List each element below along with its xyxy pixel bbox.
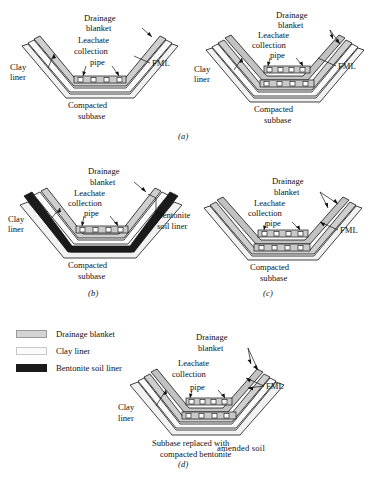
arrow-pipe-left	[189, 394, 193, 399]
legend-swatch-clay-liner	[16, 347, 47, 355]
leachate-pipe	[264, 82, 269, 87]
label-compacted-line1: Compacted	[68, 260, 108, 270]
label-compacted-line2: subbase	[78, 271, 105, 281]
legend-item-drainage-blanket: Drainage blanket	[16, 327, 122, 341]
landfill-liner-figure: Drainage blanket Leachate collection pip…	[0, 0, 374, 482]
arrow-pipe-left	[83, 71, 87, 76]
label-clay-line1: Clay	[118, 402, 135, 412]
leachate-pipe	[267, 68, 272, 73]
label-leachate-line1: Leachate	[78, 35, 109, 45]
label-leachate-line3: pipe	[84, 208, 99, 218]
label-leachate-line2: collection	[74, 46, 109, 56]
label-leachate-line3: pipe	[270, 50, 285, 60]
leachate-pipe	[117, 78, 122, 83]
leachate-pipe	[262, 232, 267, 237]
leachate-pipe	[224, 414, 229, 419]
legend-item-bentonite-soil-liner: Bentonite soil liner	[16, 361, 122, 375]
legend-swatch-bentonite-soil-liner	[16, 364, 47, 372]
legend-item-clay-liner: Clay liner	[16, 344, 122, 358]
label-subbase-repl-line3: amended soil	[217, 443, 265, 453]
arrow-pipe-left	[267, 62, 271, 67]
label-fml: FML	[340, 225, 358, 235]
leachate-pipe	[274, 232, 279, 237]
leachate-pipe	[278, 68, 283, 73]
leachate-pipe	[290, 82, 295, 87]
label-drainage-line2: blanket	[278, 20, 304, 30]
caption-c: (c)	[263, 288, 273, 298]
label-leachate-line2: collection	[252, 40, 287, 50]
legend: Drainage blanket Clay liner Bentonite so…	[16, 327, 122, 378]
leachate-pipe	[200, 400, 205, 405]
leachate-pipe	[91, 78, 96, 83]
label-leachate-line2: collection	[248, 208, 283, 218]
leachate-pipe	[272, 246, 277, 251]
label-leachate-line3: pipe	[266, 218, 281, 228]
leachate-pipe	[189, 400, 194, 405]
leachate-pipe	[298, 232, 303, 237]
label-leachate-line1: Leachate	[258, 30, 289, 40]
leachate-pipe	[106, 228, 111, 233]
label-drainage-line2: blanket	[198, 343, 224, 353]
caption-b: (b)	[88, 288, 99, 298]
label-drainage-line2: blanket	[274, 187, 300, 197]
leachate-pipe	[286, 232, 291, 237]
label-clay-line2: liner	[8, 224, 24, 234]
label-compacted-line1: Compacted	[254, 104, 294, 114]
label-fml: FML	[338, 61, 356, 71]
caption-d: (d)	[178, 459, 189, 469]
leachate-pipe	[298, 246, 303, 251]
label-leachate-line3: pipe	[90, 57, 105, 67]
panel-a-left: Drainage blanket Leachate collection pip…	[6, 6, 186, 134]
label-clay-line2: liner	[194, 74, 210, 84]
label-leachate-line1: Leachate	[178, 358, 209, 368]
leachate-pipe	[300, 68, 305, 73]
arrow-drainage-1	[253, 365, 258, 370]
label-clay-line1: Clay	[8, 214, 25, 224]
arrow-drainage-1	[333, 199, 338, 204]
figure-bottom-caption	[8, 472, 374, 482]
label-drainage-line1: Drainage	[84, 13, 116, 23]
label-fml: FML	[152, 58, 170, 68]
label-compacted-line2: subbase	[260, 273, 287, 283]
panel-d: Drainage blanket Leachate collection pip…	[108, 320, 358, 460]
legend-label-clay-liner: Clay liner	[56, 346, 90, 356]
panel-c: Drainage blanket Leachate collection pip…	[192, 168, 372, 288]
label-clay-line1: Clay	[194, 64, 211, 74]
legend-swatch-drainage-blanket	[16, 330, 47, 338]
leachate-pipe	[277, 82, 282, 87]
label-drainage-line1: Drainage	[276, 10, 308, 20]
label-leachate-line1: Leachate	[74, 188, 105, 198]
leachate-pipe	[186, 414, 191, 419]
leachate-pipe	[93, 228, 98, 233]
arrow-drainage	[141, 187, 146, 192]
leachate-pipe	[80, 228, 85, 233]
label-drainage-line1: Drainage	[88, 166, 120, 176]
leachate-pipe	[212, 414, 217, 419]
arrow-drainage-2	[248, 360, 252, 365]
leachate-pipe	[78, 78, 83, 83]
label-compacted-line1: Compacted	[250, 262, 290, 272]
leachate-pipe	[199, 414, 204, 419]
arrow-pipe-right	[115, 72, 119, 77]
label-drainage-line2: blanket	[90, 177, 116, 187]
panel-a-right: Drainage blanket Leachate collection pip…	[190, 6, 372, 134]
leachate-pipe	[303, 82, 308, 87]
leachate-pipe	[211, 400, 216, 405]
label-compacted-line1: Compacted	[68, 100, 108, 110]
label-leachate-line1: Leachate	[254, 198, 285, 208]
legend-label-drainage-blanket: Drainage blanket	[56, 329, 115, 339]
arrow-drainage-2	[330, 35, 334, 40]
label-leachate-line3: pipe	[190, 382, 205, 392]
label-compacted-line2: subbase	[78, 111, 105, 121]
panel-b: Drainage blanket Leachate collection pip…	[6, 160, 192, 286]
caption-a: (a)	[178, 131, 189, 141]
leachate-pipe	[104, 78, 109, 83]
label-bentonite-line1: Bentonite	[157, 210, 191, 220]
label-drainage-line2: blanket	[86, 23, 112, 33]
leachate-pipe	[118, 228, 123, 233]
arrow-drainage-2	[325, 203, 329, 208]
leachate-pipe	[285, 246, 290, 251]
label-leachate-line2: collection	[68, 198, 103, 208]
label-bentonite-line2: soil liner	[157, 221, 187, 231]
leachate-pipe	[259, 246, 264, 251]
